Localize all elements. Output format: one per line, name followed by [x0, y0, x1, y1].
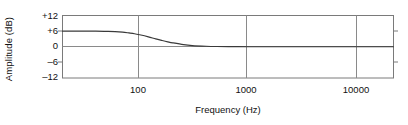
- response-curve: [63, 31, 394, 47]
- chart-figure: Amplitude (dB) +12 +6 0 –6 –12 100 1000 …: [0, 0, 408, 125]
- plot-area: [0, 0, 408, 125]
